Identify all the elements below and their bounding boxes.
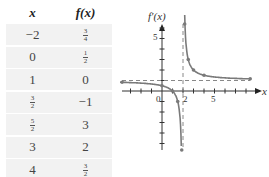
x-tick-label-5: 5 <box>211 94 216 104</box>
axis-ticks <box>131 28 247 144</box>
x-axis-arrow-icon <box>255 88 262 94</box>
derivative-graph: f′(x) x 0 2 5 5 <box>0 0 269 177</box>
y-tick-label-5: 5 <box>153 32 158 42</box>
origin-label: 0 <box>156 94 161 104</box>
x-tick-label-2: 2 <box>183 94 188 104</box>
x-axis-label: x <box>261 85 267 97</box>
y-axis-label: f′(x) <box>148 10 166 23</box>
